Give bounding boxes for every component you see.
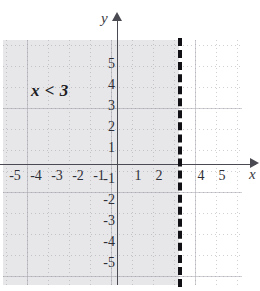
y-axis-arrow-icon [112, 12, 122, 21]
boundary-dashed-line [178, 38, 182, 287]
x-tick-label: 5 [212, 169, 232, 183]
y-tick-label: 5 [99, 57, 115, 71]
y-tick-label: 1 [99, 141, 115, 155]
y-axis [117, 20, 118, 285]
x-tick-label: 4 [191, 169, 211, 183]
x-tick-label: -2 [68, 169, 88, 183]
y-axis-label: y [101, 10, 108, 27]
y-tick-label: -1 [99, 172, 115, 186]
y-tick-label: 2 [99, 120, 115, 134]
coordinate-plane-figure: y x -5-4-3-2-11245 54321-1-2-3-4-5 x < 3 [0, 0, 260, 291]
x-axis-label: x [249, 166, 256, 183]
y-tick-label: -3 [99, 214, 115, 228]
y-tick-label: -2 [99, 193, 115, 207]
inequality-annotation: x < 3 [31, 81, 69, 101]
x-tick-label: -3 [47, 169, 67, 183]
x-tick-label: 2 [149, 169, 169, 183]
y-tick-label: 3 [99, 99, 115, 113]
x-tick-label: 1 [128, 169, 148, 183]
x-axis [0, 164, 256, 165]
x-tick-label: -4 [26, 169, 46, 183]
x-tick-label: -5 [5, 169, 25, 183]
y-tick-label: -4 [99, 235, 115, 249]
y-tick-label: -5 [99, 256, 115, 270]
shaded-solution-region [3, 40, 179, 285]
y-tick-label: 4 [99, 78, 115, 92]
